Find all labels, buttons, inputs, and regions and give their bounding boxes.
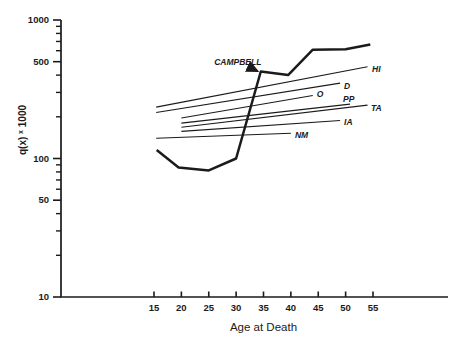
x-tick-label-35: 35	[258, 302, 269, 313]
campbell-annotation: CAMPBELL	[214, 57, 261, 71]
campbell-annotation-label: CAMPBELL	[214, 57, 261, 67]
series-label-d: D	[344, 81, 350, 91]
x-tick-label-40: 40	[286, 302, 297, 313]
y-tick-label-100: 100	[33, 153, 49, 164]
chart-canvas: 10005001005010q(x) x 1000152025303540455…	[0, 0, 462, 357]
series-label-nm: NM	[295, 130, 309, 140]
campbell-annotation-arrow	[248, 67, 257, 71]
y-tick-label-500: 500	[33, 56, 49, 67]
series-label-ta: TA	[371, 103, 382, 113]
x-tick-label-25: 25	[203, 302, 214, 313]
series-label-pp: PP	[343, 94, 355, 104]
x-axis-title: Age at Death	[230, 321, 297, 333]
plot-series: HIDOPPTAIANM	[156, 45, 382, 171]
series-line-ia	[181, 121, 340, 132]
series-label-o: O	[317, 89, 324, 99]
x-tick-label-45: 45	[313, 302, 324, 313]
x-tick-label-30: 30	[231, 302, 242, 313]
y-tick-label-50: 50	[38, 194, 49, 205]
series-line-ta	[181, 105, 367, 127]
x-tick-label-20: 20	[176, 302, 187, 313]
x-tick-label-15: 15	[149, 302, 160, 313]
series-label-hi: HI	[372, 64, 381, 74]
x-tick-label-50: 50	[340, 302, 351, 313]
mortality-comparison-figure: 10005001005010q(x) x 1000152025303540455…	[0, 0, 462, 357]
series-label-ia: IA	[344, 117, 353, 127]
y-axis-title: q(x) x 1000	[17, 105, 29, 155]
series-line-nm	[156, 133, 291, 138]
x-tick-label-55: 55	[368, 302, 379, 313]
y-tick-label-1000: 1000	[28, 14, 49, 25]
y-axis: 10005001005010q(x) x 1000	[17, 14, 62, 302]
y-tick-label-10: 10	[38, 291, 49, 302]
